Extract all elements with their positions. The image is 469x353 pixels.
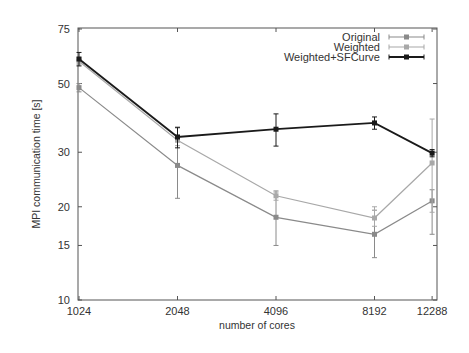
data-point xyxy=(175,163,180,168)
data-point xyxy=(372,215,377,220)
series-line xyxy=(79,59,432,153)
series-weighted-sfcurve xyxy=(77,52,435,156)
series-line xyxy=(79,61,432,218)
plot-frame xyxy=(78,28,437,300)
series-original xyxy=(77,84,435,258)
data-point xyxy=(175,134,180,139)
legend-swatch-marker xyxy=(404,45,409,50)
x-tick-label: 8192 xyxy=(362,305,386,317)
series-line xyxy=(79,88,432,235)
y-axis-label: MPI communication time [s] xyxy=(30,99,42,228)
x-tick-label: 2048 xyxy=(165,305,189,317)
data-point xyxy=(274,127,279,132)
series-weighted xyxy=(77,58,435,226)
data-point xyxy=(372,120,377,125)
x-axis-label: number of cores xyxy=(219,319,295,331)
data-point xyxy=(430,151,435,156)
data-point xyxy=(372,232,377,237)
x-axis-ticks: 102420484096819212288 xyxy=(67,28,448,317)
data-point xyxy=(430,160,435,165)
y-tick-label: 20 xyxy=(58,201,70,213)
data-point xyxy=(77,85,82,90)
y-tick-label: 75 xyxy=(58,23,70,35)
legend-label: Weighted+SFCurve xyxy=(284,51,380,63)
legend: OriginalWeightedWeighted+SFCurve xyxy=(284,31,424,63)
y-axis-ticks: 101520305075 xyxy=(58,23,437,306)
data-point xyxy=(77,57,82,62)
y-tick-label: 50 xyxy=(58,78,70,90)
x-tick-label: 4096 xyxy=(264,305,288,317)
chart: 101520305075 102420484096819212288 numbe… xyxy=(0,0,469,353)
x-tick-label: 12288 xyxy=(417,305,448,317)
y-tick-label: 15 xyxy=(58,239,70,251)
legend-swatch-marker xyxy=(404,55,409,60)
legend-swatch-marker xyxy=(404,35,409,40)
data-point xyxy=(274,215,279,220)
series-layer xyxy=(77,52,435,257)
y-tick-label: 30 xyxy=(58,146,70,158)
data-point xyxy=(274,193,279,198)
x-tick-label: 1024 xyxy=(67,305,91,317)
